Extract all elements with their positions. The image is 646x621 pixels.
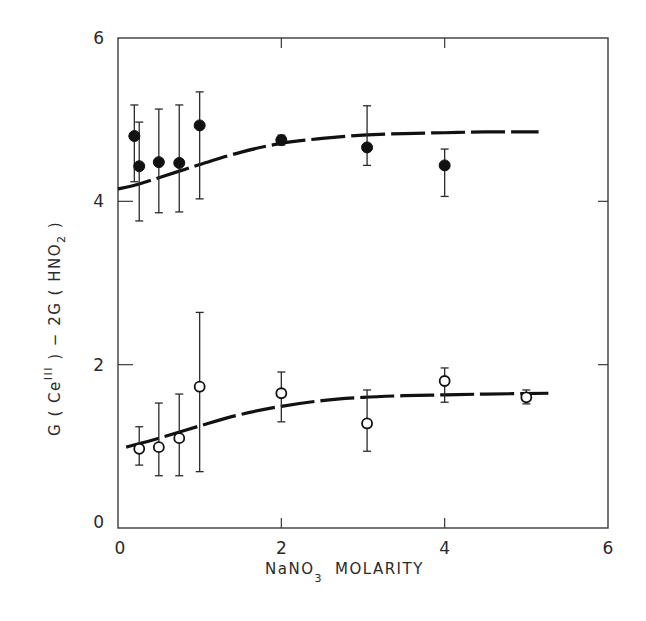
open-circle-marker (276, 388, 286, 398)
filled-circle-marker (153, 157, 164, 168)
tick-labels: 02460246 (93, 28, 613, 558)
filled-circle-marker (276, 135, 287, 146)
filled-circle-marker (194, 120, 205, 131)
filled-circle-marker (174, 157, 185, 168)
y-axis-label: G ( CeIII ) − 2G ( HNO2 ) (42, 221, 68, 436)
x-tick-label: 2 (276, 538, 287, 558)
y-tick-label: 0 (93, 512, 104, 532)
open-circle-marker (154, 442, 164, 452)
y-tick-label: 4 (93, 191, 104, 211)
y-tick-label: 2 (93, 355, 104, 375)
open-circle-marker (440, 376, 450, 386)
filled-circle-marker (134, 161, 145, 172)
chart-canvas: 02460246 NaNO3MOLARITY G ( CeIII ) − 2G … (0, 0, 646, 621)
axis-ticks (118, 38, 608, 528)
x-tick-label: 4 (439, 538, 450, 558)
x-tick-label: 0 (115, 538, 126, 558)
fit-curve (126, 393, 548, 447)
open-circle-marker (134, 444, 144, 454)
filled-circle-marker (439, 160, 450, 171)
fit-curves (118, 132, 548, 447)
x-tick-label: 6 (603, 538, 614, 558)
open-circle-marker (174, 433, 184, 443)
data-markers (129, 120, 532, 454)
filled-circle-marker (362, 142, 373, 153)
filled-circle-marker (129, 131, 140, 142)
open-circle-marker (521, 392, 531, 402)
open-circle-marker (362, 418, 372, 428)
y-tick-label: 6 (93, 28, 104, 48)
error-bars (130, 92, 530, 476)
plot-frame (118, 38, 608, 528)
open-circle-marker (195, 382, 205, 392)
x-axis-label: NaNO3MOLARITY (265, 560, 424, 585)
